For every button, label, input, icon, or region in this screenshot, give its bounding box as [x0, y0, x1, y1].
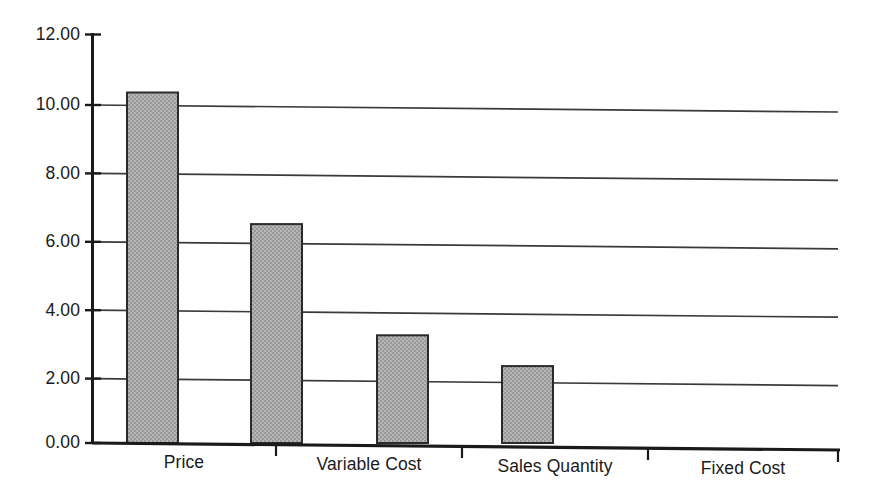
- x-axis-tick-label: Variable Cost: [276, 454, 462, 475]
- category-axis-labels: Price Variable Cost Sales Quantity Fixed…: [0, 0, 874, 497]
- x-axis-tick-label: Fixed Cost: [648, 458, 838, 479]
- x-axis-tick-label: Price: [92, 452, 276, 473]
- bar-chart: 12.00 10.00 8.00 6.00 4.00 2.00 0.00 Pri…: [0, 0, 874, 497]
- x-axis-tick-label: Sales Quantity: [462, 456, 648, 477]
